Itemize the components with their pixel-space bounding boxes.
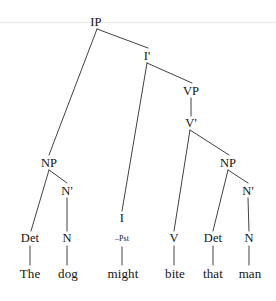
tree-node-np-obj: NP: [220, 157, 236, 170]
tree-node-pst: –Pst: [115, 235, 129, 243]
tree-node-word-the: The: [20, 267, 41, 280]
tree-node-v: V: [169, 232, 178, 245]
tree-node-i-bar: I': [144, 50, 151, 63]
tree-node-n-1: N: [62, 232, 71, 245]
tree-node-ip: IP: [90, 16, 101, 29]
tree-node-n-2: N: [244, 232, 253, 245]
tree-node-vp: VP: [183, 85, 199, 98]
tree-nodes-layer: IPI'VPV'NPN'NPN'DetNI–PstVDetNThedogmigh…: [0, 0, 276, 301]
tree-node-word-man: man: [239, 267, 262, 280]
tree-node-det-1: Det: [21, 232, 39, 245]
tree-node-np-subj: NP: [41, 157, 57, 170]
tree-node-det-2: Det: [204, 232, 222, 245]
tree-node-word-might: might: [108, 267, 139, 280]
tree-node-word-dog: dog: [58, 267, 78, 280]
tree-node-n-bar-2: N': [242, 185, 253, 198]
tree-node-word-that: that: [203, 267, 223, 280]
syntax-tree-diagram: IPI'VPV'NPN'NPN'DetNI–PstVDetNThedogmigh…: [0, 0, 276, 301]
tree-node-v-bar: V': [185, 117, 196, 130]
tree-node-n-bar-1: N': [61, 185, 72, 198]
tree-node-word-bite: bite: [165, 267, 185, 280]
tree-node-i: I: [120, 212, 124, 225]
